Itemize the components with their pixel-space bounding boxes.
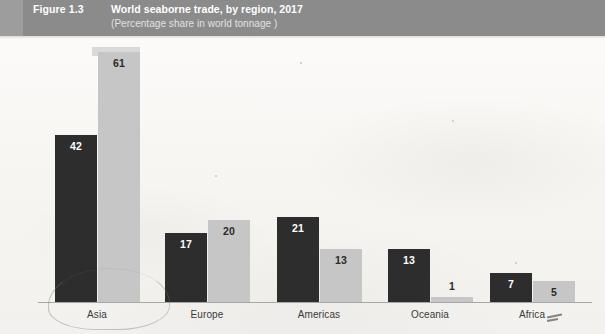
bar-asia-unloaded[interactable]	[98, 52, 140, 302]
bar-oceania-unloaded[interactable]	[431, 297, 473, 302]
bar-value-asia-loaded: 42	[55, 140, 97, 152]
bar-group-africa: 7 5	[490, 52, 575, 302]
bar-group-europe: 17 20	[165, 52, 250, 302]
category-label-asia: Asia	[42, 309, 152, 320]
bar-group-asia: 42 61	[55, 52, 140, 302]
x-axis-line	[38, 302, 592, 303]
bar-group-americas: 21 13	[277, 52, 362, 302]
chart-plot-area: 42 61 Asia 17 20 Europe 21	[0, 36, 605, 334]
bar-value-oceania-loaded: 13	[388, 254, 430, 266]
bar-value-asia-unloaded: 61	[98, 57, 140, 69]
bar-value-americas-unloaded: 13	[320, 254, 362, 266]
category-label-africa: Africa	[477, 309, 587, 320]
bar-value-oceania-unloaded: 1	[431, 280, 473, 292]
category-label-oceania: Oceania	[375, 309, 485, 320]
bar-value-africa-unloaded: 5	[533, 286, 575, 298]
bar-value-europe-unloaded: 20	[208, 225, 250, 237]
bar-group-oceania: 13 1	[388, 52, 473, 302]
figure-header-band: Figure 1.3 World seaborne trade, by regi…	[0, 0, 605, 36]
bar-asia-loaded[interactable]	[55, 135, 97, 302]
bar-value-americas-loaded: 21	[277, 222, 319, 234]
figure-number: Figure 1.3	[33, 3, 123, 15]
figure-subtitle: (Percentage share in world tonnage )	[111, 18, 277, 29]
bar-value-africa-loaded: 7	[490, 278, 532, 290]
figure-title: World seaborne trade, by region, 2017	[111, 3, 303, 15]
figure-page: Figure 1.3 World seaborne trade, by regi…	[0, 0, 605, 334]
category-label-americas: Americas	[264, 309, 374, 320]
header-left-block	[0, 0, 23, 36]
category-label-europe: Europe	[152, 309, 262, 320]
bar-value-europe-loaded: 17	[165, 238, 207, 250]
